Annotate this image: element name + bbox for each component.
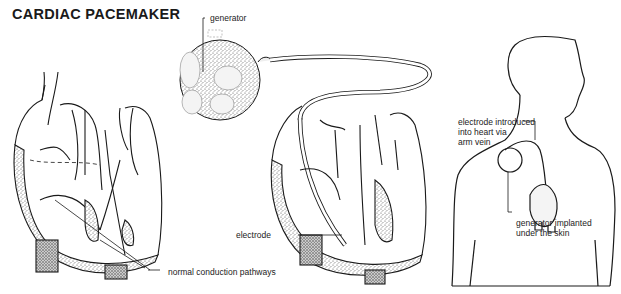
label-generator-implanted: generator implanted under the skin: [516, 218, 592, 238]
label-conduction-pathways: normal conduction pathways: [168, 267, 276, 277]
generator-figure: [180, 18, 430, 120]
normal-heart-figure: [14, 72, 162, 279]
label-electrode-arm-vein: electrode introduced into heart via arm …: [458, 117, 535, 147]
label-electrode: electrode: [236, 230, 271, 240]
illustration: [0, 0, 621, 294]
paced-heart-figure: [271, 106, 426, 284]
label-generator: generator: [210, 13, 246, 23]
torso-figure: [452, 37, 615, 286]
